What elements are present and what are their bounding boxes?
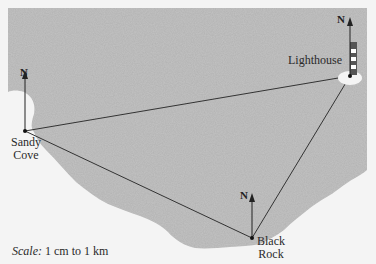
north-label-sandy-cove: N	[20, 66, 28, 78]
north-label-lighthouse: N	[337, 13, 345, 25]
point-sandy-cove	[23, 129, 27, 133]
label-sandy-cove-line2: Cove	[6, 149, 46, 162]
scale-text: 1 cm to 1 km	[45, 244, 108, 258]
label-lighthouse: Lighthouse	[288, 54, 342, 67]
scale-prefix: Scale:	[12, 244, 42, 258]
label-black-rock: Black Rock	[254, 235, 288, 261]
label-sandy-cove: Sandy Cove	[6, 136, 46, 162]
point-lighthouse	[348, 74, 352, 78]
north-label-black-rock: N	[240, 189, 248, 201]
map-diagram	[0, 0, 376, 264]
lighthouse-icon	[350, 42, 357, 75]
scale-note: Scale: 1 cm to 1 km	[12, 244, 108, 259]
label-black-rock-line2: Rock	[254, 248, 288, 261]
